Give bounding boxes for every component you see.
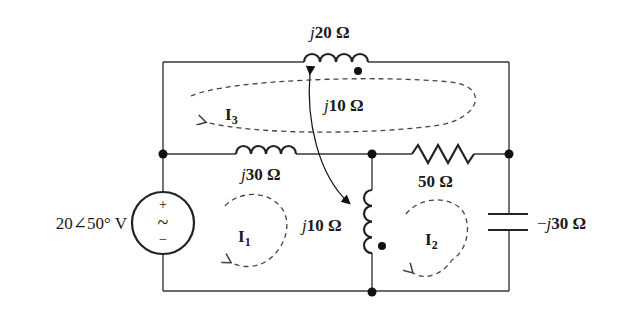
- plus-sign: +: [159, 197, 167, 212]
- polarity-dot-vertical: [378, 242, 386, 250]
- ac-symbol: ~: [158, 211, 169, 233]
- vertical-inductor-label: j10 Ω: [300, 216, 342, 235]
- resistor-label: 50 Ω: [418, 172, 453, 191]
- voltage-source: + ~ − 20∠50° V: [56, 192, 194, 254]
- minus-sign: −: [159, 232, 167, 247]
- top-inductor-label: j20 Ω: [308, 23, 350, 42]
- mesh-i1: I1: [225, 194, 287, 266]
- node-middle: [368, 150, 377, 159]
- mid-inductor: j30 Ω: [236, 146, 296, 184]
- capacitor-label: −j30 Ω: [537, 214, 586, 233]
- mesh-i3-label: I3: [225, 105, 238, 127]
- mutual-inductance: j10 Ω: [309, 73, 363, 203]
- source-label: 20∠50° V: [56, 214, 128, 233]
- top-inductor: j20 Ω: [304, 23, 368, 75]
- resistor: 50 Ω: [412, 145, 474, 191]
- node-left: [159, 150, 168, 159]
- capacitor: −j30 Ω: [488, 214, 586, 233]
- polarity-dot-top: [354, 67, 362, 75]
- node-right: [505, 150, 514, 159]
- mesh-i2-label: I2: [425, 230, 438, 252]
- double-arrow-icon: [309, 73, 349, 203]
- node-bottom: [368, 288, 377, 297]
- circuit-diagram: j20 Ω j30 Ω 50 Ω j10 Ω −j30 Ω + ~ − 20∠5…: [0, 0, 622, 315]
- mid-inductor-label: j30 Ω: [239, 165, 281, 184]
- mesh-i2: I2: [406, 200, 467, 277]
- mutual-label: j10 Ω: [322, 96, 364, 115]
- mesh-i1-label: I1: [238, 227, 251, 249]
- vertical-inductor: j10 Ω: [300, 190, 386, 253]
